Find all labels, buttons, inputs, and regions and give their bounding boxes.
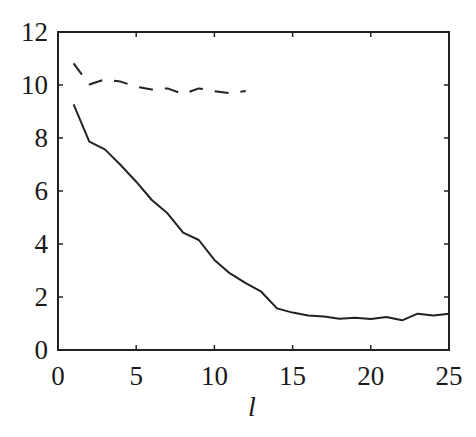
x-tick-label: 0	[51, 361, 65, 391]
y-tick-labels: 024681012	[21, 17, 49, 365]
y-tick-label: 8	[35, 123, 49, 153]
y-tick-label: 12	[21, 17, 48, 47]
y-tick-label: 4	[35, 229, 49, 259]
x-tick-labels: 0510152025	[51, 361, 462, 391]
x-tick-label: 5	[129, 361, 143, 391]
x-tick-label: 20	[357, 361, 384, 391]
plot-frame	[58, 32, 449, 350]
x-tick-label: 10	[201, 361, 228, 391]
y-tick-label: 0	[35, 335, 49, 365]
axis-ticks	[58, 32, 449, 350]
line-chart: 0510152025 024681012 l	[0, 0, 476, 437]
x-axis-label: l	[248, 391, 256, 422]
y-tick-label: 6	[35, 176, 49, 206]
y-tick-label: 2	[35, 282, 49, 312]
y-tick-label: 10	[21, 70, 48, 100]
series-solid-line	[74, 104, 449, 320]
x-tick-label: 25	[436, 361, 463, 391]
series-dashed-line	[74, 63, 246, 94]
x-tick-label: 15	[279, 361, 306, 391]
plot-lines	[74, 63, 449, 320]
